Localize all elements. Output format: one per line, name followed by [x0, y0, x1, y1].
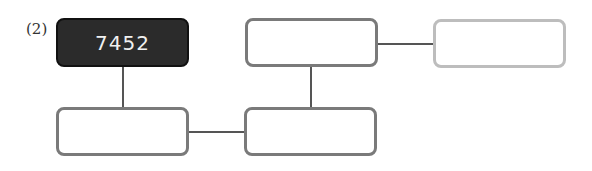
start-number-box: 7452	[56, 18, 189, 67]
answer-box-top-middle[interactable]	[245, 18, 378, 67]
connector-start-to-bottom-left	[122, 67, 124, 107]
connector-bottom-middle-to-top-middle	[310, 67, 312, 107]
problem-number-label: (2)	[26, 20, 47, 38]
answer-box-top-right[interactable]	[433, 19, 566, 68]
connector-top-middle-to-top-right	[378, 43, 433, 45]
answer-box-bottom-middle[interactable]	[244, 107, 377, 156]
answer-box-bottom-left[interactable]	[56, 107, 189, 156]
connector-bottom-left-to-bottom-middle	[189, 131, 244, 133]
start-number-text: 7452	[95, 31, 150, 55]
